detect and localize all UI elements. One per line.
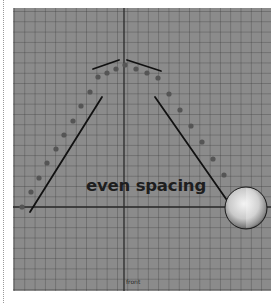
bouncing-ball[interactable] [225,187,267,229]
trajectory-dot [177,107,182,112]
trajectory-dot [133,66,138,71]
trajectory-dot [36,175,41,180]
diagram-caption: even spacing [86,176,206,195]
trajectory-dot [166,91,171,96]
camera-view-label: front [126,278,140,285]
trajectory-dot [53,146,58,151]
right-apex-tangent [127,60,161,71]
trajectory-dot [28,189,33,194]
trajectory-dot [87,89,92,94]
trajectory-dot [155,75,160,80]
trajectory-dot [44,160,49,165]
trajectory-dot [70,118,75,123]
maya-front-viewport[interactable]: even spacing front [13,8,271,291]
trajectory-dot [199,139,204,144]
trajectory-dot [122,62,127,67]
trajectory-dot [104,70,109,75]
trajectory-dot [113,66,118,71]
trajectory-dot [61,132,66,137]
trajectory-dot [188,123,193,128]
viewport-axes [13,8,271,291]
trajectory-dot [221,172,226,177]
animation-arc-diagram [13,8,271,291]
trajectory-dot [144,70,149,75]
trajectory-dot [95,74,100,79]
ball-highlight [226,188,266,228]
trajectory-dot [19,204,24,209]
trajectory-dot [78,103,83,108]
trajectory-dot [210,156,215,161]
page-margin-dotted-rule [3,0,4,303]
